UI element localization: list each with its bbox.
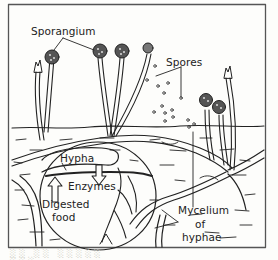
label-of: of (195, 219, 205, 230)
label-sporangium: Sporangium (31, 26, 96, 37)
label-food: food (52, 212, 76, 223)
sporangia-heads (45, 43, 226, 114)
label-hyphae: hyphae (182, 232, 222, 243)
figure-caption: ░░ ░░ ░░░░░ ░░░ (10, 250, 130, 258)
label-hypha: Hypha (60, 153, 94, 164)
label-digested: Digested (42, 199, 90, 210)
label-mycelium: Mycelium (178, 205, 229, 216)
columella-right (224, 66, 232, 78)
diagram-stage: Sporangium Spores Hypha Enzymes Digested… (0, 0, 278, 260)
label-spores: Spores (166, 57, 202, 68)
mold-illustration (0, 0, 278, 260)
bread-surface (12, 125, 264, 128)
spores (146, 65, 196, 129)
columella-left (34, 60, 42, 72)
label-enzymes: Enzymes (68, 181, 116, 192)
